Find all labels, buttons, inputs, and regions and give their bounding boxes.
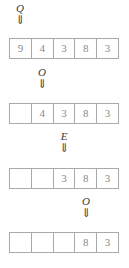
double-down-arrow-icon: ⇓ (75, 207, 97, 219)
array-cell-empty (32, 233, 54, 252)
diagram-stage: O ⇓ 8 3 (0, 192, 129, 256)
array-cell: 3 (54, 104, 76, 123)
array-cell: 4 (32, 104, 54, 123)
array-cell: 8 (75, 39, 97, 58)
array-shrink-diagram: Q ⇓ 9 4 3 8 3 O ⇓ 4 3 8 3 E ⇓ (0, 0, 129, 268)
array-row: 3 8 3 (9, 168, 119, 189)
array-cell: 3 (97, 169, 118, 188)
array-cell: 3 (97, 233, 118, 252)
array-cell-empty (10, 104, 32, 123)
double-down-arrow-icon: ⇓ (53, 142, 75, 154)
array-cell: 8 (75, 169, 97, 188)
array-cell: 3 (97, 104, 118, 123)
array-cell-empty (10, 233, 32, 252)
array-cell-empty (32, 169, 54, 188)
array-cell: 4 (32, 39, 54, 58)
stage-annotation: O ⇓ (75, 195, 97, 219)
array-cell: 3 (54, 39, 76, 58)
array-cell: 9 (10, 39, 32, 58)
stage-annotation: E ⇓ (53, 130, 75, 154)
double-down-arrow-icon: ⇓ (31, 78, 53, 90)
stage-annotation: Q ⇓ (9, 2, 31, 26)
array-cell: 8 (75, 104, 97, 123)
stage-annotation: O ⇓ (31, 66, 53, 90)
array-cell: 3 (97, 39, 118, 58)
diagram-stage: O ⇓ 4 3 8 3 (0, 62, 129, 126)
array-cell-empty (54, 233, 76, 252)
array-cell: 8 (75, 233, 97, 252)
array-cell-empty (10, 169, 32, 188)
array-cell: 3 (54, 169, 76, 188)
diagram-stage: E ⇓ 3 8 3 (0, 128, 129, 191)
array-row: 4 3 8 3 (9, 103, 119, 124)
diagram-stage: Q ⇓ 9 4 3 8 3 (0, 0, 129, 60)
array-row: 9 4 3 8 3 (9, 38, 119, 59)
array-row: 8 3 (9, 232, 119, 253)
double-down-arrow-icon: ⇓ (9, 14, 31, 26)
